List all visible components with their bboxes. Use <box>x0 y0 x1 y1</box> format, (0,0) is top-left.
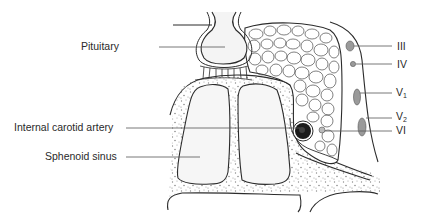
cavernous-sinus-diagram: Pituitary Internal carotid artery Spheno… <box>0 0 426 213</box>
pituitary-gland <box>196 12 252 68</box>
label-cn-iii: III <box>397 41 406 52</box>
label-cn-v2-sub: 2 <box>403 116 407 123</box>
nerve-vi <box>319 127 325 133</box>
label-cn-vi: VI <box>396 125 406 136</box>
diagram-canvas <box>0 0 426 213</box>
nerve-iv <box>350 61 355 66</box>
label-cn-v1-sub: 1 <box>403 92 407 99</box>
nerve-v2 <box>358 118 366 136</box>
nerve-v1 <box>354 89 361 105</box>
nerve-iii <box>346 41 354 51</box>
label-cn-v2-main: V <box>396 110 403 122</box>
label-cn-v1-main: V <box>396 86 403 98</box>
label-pituitary: Pituitary <box>81 41 119 52</box>
label-internal-carotid-artery: Internal carotid artery <box>14 122 113 133</box>
label-cn-v2: V2 <box>396 111 407 123</box>
label-cn-v1: V1 <box>396 87 407 99</box>
label-cn-iv: IV <box>397 59 407 70</box>
internal-carotid-artery <box>293 121 313 141</box>
label-sphenoid-sinus: Sphenoid sinus <box>45 151 117 162</box>
